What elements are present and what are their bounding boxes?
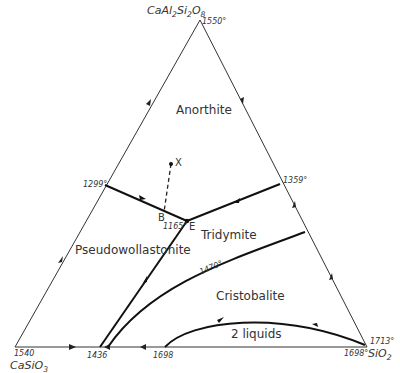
temp-eutectic-E: 1165° [163,223,187,231]
arrow-1359-E [233,198,240,203]
phase-tridymite: Tridymite [201,229,257,241]
arrow-left-upper [146,99,151,106]
point-X-label: X [175,158,182,168]
triangle-edges [15,20,367,347]
temp-sio2-1713: 1713° [370,338,394,346]
edge-left [15,20,200,347]
phase-pseudowollastonite: Pseudowollastonite [75,244,191,256]
phase-diagram-canvas [0,0,400,373]
temp-1436: 1436 [87,352,107,360]
boundary-1359-to-E [187,184,280,221]
phase-anorthite: Anorthite [176,104,232,116]
edge-arrows [58,97,333,350]
crystallization-path-X-B [164,164,171,212]
temp-sio2-1698: 1698° [344,350,368,358]
arrow-1299-E [139,195,146,200]
temp-1299: 1299° [83,181,107,189]
temp-casio3-melting: 1540 [14,350,34,358]
boundary-1299-to-E [105,185,187,221]
arrow-E-1436 [143,276,147,283]
point-X-marker [169,162,173,166]
temp-1698: 1698 [153,352,173,360]
arrow-two-liquids-right [312,323,318,327]
arrow-left-lower [58,256,63,263]
arrow-two-liquids-left [217,317,224,323]
temp-anorthite-melting: 1550° [202,18,226,26]
boundary-E-to-1436 [100,221,187,347]
point-E-label: E [189,222,195,232]
component-top-label: CaAl2Si2O8 [147,5,205,19]
phase-cristobalite: Cristobalite [216,290,285,302]
arrow-bottom-mid [140,344,146,350]
component-bottom-left-label: CaSiO3 [10,360,48,373]
component-bottom-right-label: SiO2 [368,348,392,362]
arrow-bottom-left [69,344,76,350]
temp-1359: 1359° [283,177,307,185]
phase-two-liquids: 2 liquids [231,328,282,340]
